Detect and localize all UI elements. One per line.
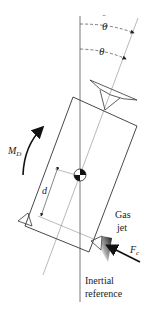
d-extension-bottom — [38, 216, 96, 240]
inertial-label-line2: reference — [85, 288, 123, 299]
theta-cmd-accent: ¨ — [103, 12, 106, 22]
left-thruster-icon — [18, 213, 32, 226]
d-label: d — [42, 185, 48, 196]
theta-label: θ — [99, 45, 105, 57]
disturbance-moment-arrow — [23, 128, 42, 175]
body-axis-line — [43, 18, 138, 275]
gas-jet-thruster-icon — [91, 236, 102, 250]
force-label: Fc — [129, 244, 140, 257]
gas-jet-label-line1: Gas — [115, 209, 131, 220]
satellite-attitude-diagram: θ ¨ θ d MD Gas jet Fc Inertial reference — [0, 0, 153, 314]
gas-jet-plume — [101, 236, 112, 262]
d-extension-top — [55, 169, 76, 175]
inertial-label-line1: Inertial — [85, 275, 114, 286]
gas-jet-label-line2: jet — [116, 222, 127, 233]
moment-label: MD — [7, 145, 21, 158]
